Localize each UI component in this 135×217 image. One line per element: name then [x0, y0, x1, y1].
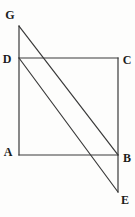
segment-GB — [19, 26, 118, 155]
vertex-label-C: C — [123, 53, 132, 67]
vertex-label-G: G — [5, 8, 14, 22]
geometry-figure: GDCABE — [0, 0, 135, 217]
vertex-label-A: A — [4, 145, 13, 159]
vertex-label-D: D — [3, 52, 12, 66]
vertex-label-E: E — [121, 193, 129, 207]
vertex-label-B: B — [123, 151, 131, 165]
segment-DE — [19, 58, 118, 192]
scanned-figure-page: GDCABE — [0, 0, 135, 217]
